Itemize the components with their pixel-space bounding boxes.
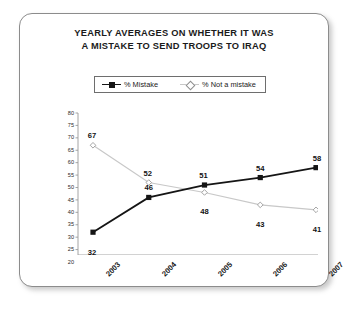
legend-marker-filled-square-icon: [102, 80, 121, 89]
point-label: 51: [195, 171, 213, 180]
point-label: 67: [83, 131, 101, 140]
point-label: 52: [139, 169, 157, 178]
y-tick-label: 20: [59, 259, 74, 265]
point-label: 46: [140, 183, 158, 192]
point-label: 54: [251, 164, 269, 173]
chart-title-line-1: YEARLY AVERAGES ON WHETHER IT WAS: [20, 27, 328, 40]
plot-svg: [58, 100, 318, 255]
y-tick-label: 45: [59, 197, 74, 203]
chart-legend: % Mistake % Not a mistake: [94, 76, 266, 93]
point-label: 48: [196, 207, 214, 216]
point-label: 43: [251, 220, 269, 229]
point-label: 32: [83, 248, 101, 257]
plot-area: 80757065605550454035302520 2003200420052…: [58, 100, 318, 255]
x-tick-label-2007: 2007: [327, 260, 345, 278]
legend-label-mistake: % Mistake: [124, 80, 158, 89]
y-tick-label: 80: [59, 110, 74, 116]
legend-label-not-a-mistake: % Not a mistake: [202, 80, 256, 89]
legend-item-not-a-mistake[interactable]: % Not a mistake: [180, 80, 256, 89]
chart-title-line-2: A MISTAKE TO SEND TROOPS TO IRAQ: [20, 40, 328, 53]
y-tick-label: 40: [59, 209, 74, 215]
y-tick-label: 70: [59, 134, 74, 140]
chart-title: YEARLY AVERAGES ON WHETHER IT WAS A MIST…: [20, 27, 328, 52]
x-tick-label-2004: 2004: [160, 260, 178, 278]
y-tick-label: 30: [59, 234, 74, 240]
x-tick-label-2006: 2006: [271, 260, 289, 278]
x-tick-label-2005: 2005: [215, 260, 233, 278]
screenshot-root: YEARLY AVERAGES ON WHETHER IT WAS A MIST…: [0, 0, 349, 309]
point-label: 58: [308, 154, 326, 163]
y-tick-label: 75: [59, 122, 74, 128]
x-tick-label-2003: 2003: [104, 260, 122, 278]
legend-item-mistake[interactable]: % Mistake: [102, 80, 158, 89]
y-tick-label: 35: [59, 221, 74, 227]
y-tick-label: 60: [59, 159, 74, 165]
y-tick-label: 50: [59, 184, 74, 190]
legend-marker-open-diamond-icon: [180, 80, 199, 89]
y-tick-label: 55: [59, 172, 74, 178]
chart-card: YEARLY AVERAGES ON WHETHER IT WAS A MIST…: [19, 13, 329, 287]
point-label: 41: [308, 225, 326, 234]
y-tick-label: 65: [59, 147, 74, 153]
y-tick-label: 25: [59, 246, 74, 252]
